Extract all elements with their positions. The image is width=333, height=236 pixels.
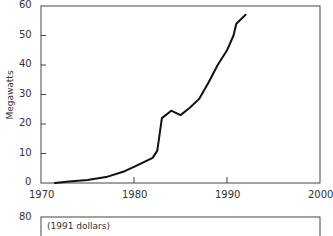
y-axis-label: Megawatts: [5, 70, 15, 120]
y-tick-label: 20: [19, 117, 32, 128]
x-tick-label: 1980: [122, 189, 147, 200]
y-tick-label: 30: [19, 88, 32, 99]
x-tick-label: 2000: [308, 189, 333, 200]
plot-frame: [41, 6, 320, 183]
y-tick-label: 50: [19, 29, 32, 40]
x-tick-label: 1990: [215, 189, 240, 200]
y-tick-label: 60: [19, 0, 32, 10]
y-tick-label: 10: [19, 147, 32, 158]
megawatts-series-line: [55, 15, 246, 183]
second-chart-top-tick: 80: [19, 211, 32, 222]
y-tick-label: 0: [25, 176, 31, 187]
x-axis-ticks: [134, 177, 227, 183]
second-chart-note: (1991 dollars): [47, 221, 110, 231]
y-tick-label: 40: [19, 58, 32, 69]
x-tick-label: 1970: [29, 189, 54, 200]
y-axis-ticks: [41, 36, 46, 154]
